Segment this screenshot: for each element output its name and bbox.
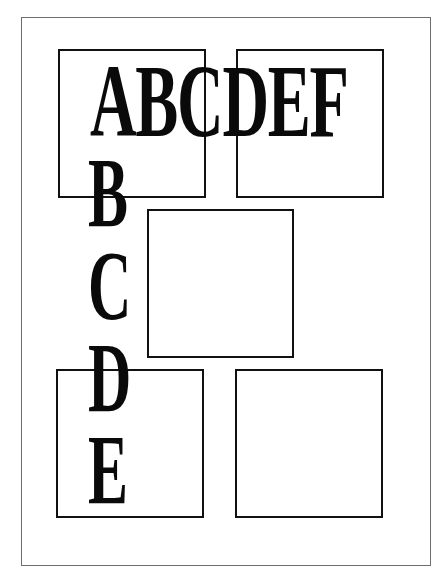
letter-d: D [222, 49, 267, 153]
vertical-letter-d: D [88, 328, 131, 428]
letter-e: E [268, 49, 310, 153]
vertical-letter-b: B [88, 143, 128, 243]
box-center [147, 209, 294, 358]
letter-c: C [177, 49, 222, 153]
vertical-letter-e: E [88, 420, 128, 520]
box-bottom-right [235, 369, 383, 518]
vertical-letter-c: C [88, 236, 131, 336]
horizontal-letters: ABCDEF [90, 49, 348, 153]
letter-b: B [135, 49, 177, 153]
letter-f: F [310, 49, 348, 153]
